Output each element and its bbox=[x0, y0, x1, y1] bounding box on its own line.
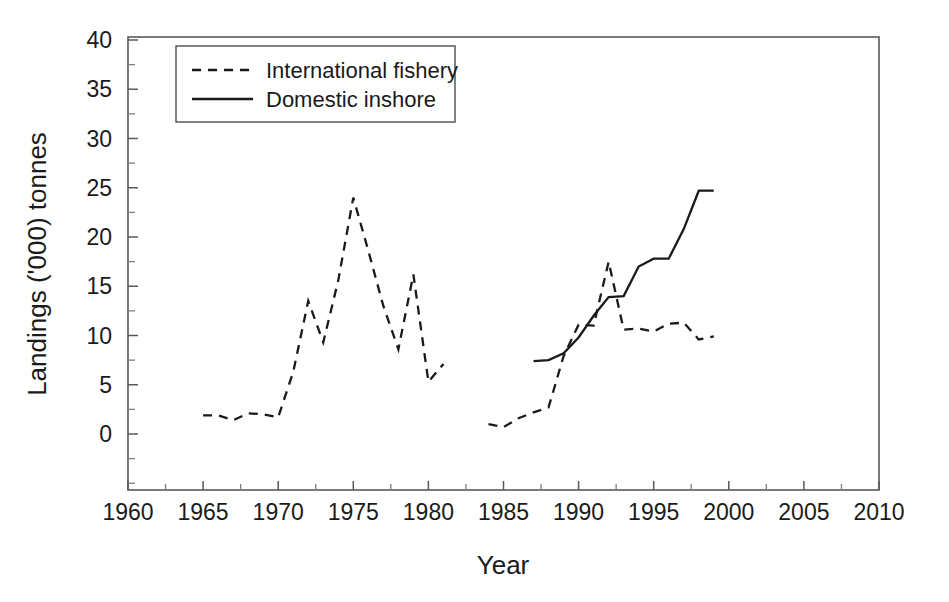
legend-label-international-fishery: International fishery bbox=[266, 58, 458, 83]
x-tick-label-1985: 1985 bbox=[478, 499, 529, 525]
x-tick-label-1970: 1970 bbox=[253, 499, 304, 525]
legend-label-domestic-inshore: Domestic inshore bbox=[266, 87, 436, 112]
y-tick-label-25: 25 bbox=[86, 175, 112, 201]
line-chart-svg: 1960196519701975198019851990199520002005… bbox=[0, 0, 949, 602]
chart-figure: 1960196519701975198019851990199520002005… bbox=[0, 0, 949, 602]
y-tick-label-30: 30 bbox=[86, 126, 112, 152]
y-tick-label-0: 0 bbox=[99, 421, 112, 447]
y-axis-title: Landings ('000) tonnes bbox=[22, 132, 52, 396]
series-line-international-fishery bbox=[203, 198, 443, 421]
y-tick-label-5: 5 bbox=[99, 372, 112, 398]
y-axis-minor-ticks bbox=[128, 65, 135, 484]
x-tick-label-1990: 1990 bbox=[553, 499, 604, 525]
x-axis-title: Year bbox=[477, 550, 530, 580]
x-tick-label-1975: 1975 bbox=[328, 499, 379, 525]
series-line-domestic-inshore bbox=[534, 191, 714, 361]
x-tick-label-1960: 1960 bbox=[102, 499, 153, 525]
series-line-international-fishery bbox=[488, 262, 713, 427]
chart-legend: International fishery Domestic inshore bbox=[176, 46, 458, 122]
y-tick-label-10: 10 bbox=[86, 323, 112, 349]
x-tick-label-1995: 1995 bbox=[628, 499, 679, 525]
x-tick-label-1980: 1980 bbox=[403, 499, 454, 525]
y-tick-label-35: 35 bbox=[86, 76, 112, 102]
x-tick-label-1965: 1965 bbox=[178, 499, 229, 525]
y-tick-label-20: 20 bbox=[86, 224, 112, 250]
y-axis-major-ticks bbox=[128, 40, 138, 434]
y-tick-label-15: 15 bbox=[86, 273, 112, 299]
y-tick-label-40: 40 bbox=[86, 27, 112, 53]
x-axis-tick-labels: 1960196519701975198019851990199520002005… bbox=[102, 499, 904, 525]
data-series-group bbox=[203, 191, 714, 427]
x-tick-label-2005: 2005 bbox=[778, 499, 829, 525]
y-axis-tick-labels: 0510152025303540 bbox=[86, 27, 112, 447]
x-tick-label-2010: 2010 bbox=[853, 499, 904, 525]
x-tick-label-2000: 2000 bbox=[703, 499, 754, 525]
